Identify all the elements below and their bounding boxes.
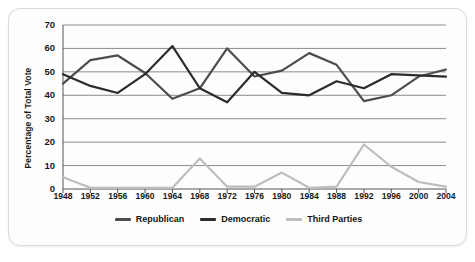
legend-swatch-icon (115, 218, 131, 221)
y-tick-label: 10 (33, 161, 55, 171)
chart-card: Percentage of Total Vote 010203040506070… (8, 8, 467, 246)
y-tick-label: 60 (33, 43, 55, 53)
chart-legend: RepublicanDemocraticThird Parties (9, 214, 468, 224)
legend-swatch-icon (286, 218, 302, 221)
legend-item-third-parties[interactable]: Third Parties (286, 214, 362, 224)
x-tick-label: 2004 (429, 191, 463, 201)
legend-item-democratic[interactable]: Democratic (200, 214, 270, 224)
chart-container: Percentage of Total Vote 010203040506070… (9, 9, 468, 247)
series-line-third-parties (63, 144, 446, 187)
series-layer (63, 46, 446, 188)
y-tick-label: 40 (33, 90, 55, 100)
legend-label: Republican (136, 214, 185, 224)
legend-swatch-icon (200, 218, 216, 221)
legend-label: Third Parties (307, 214, 362, 224)
y-tick-label: 70 (33, 20, 55, 30)
series-line-democratic (63, 46, 446, 102)
y-tick-label: 20 (33, 137, 55, 147)
y-tick-label: 30 (33, 114, 55, 124)
y-axis-title: Percentage of Total Vote (23, 43, 33, 193)
legend-item-republican[interactable]: Republican (115, 214, 185, 224)
legend-label: Democratic (221, 214, 270, 224)
y-tick-label: 50 (33, 67, 55, 77)
line-chart-plot (9, 9, 468, 247)
